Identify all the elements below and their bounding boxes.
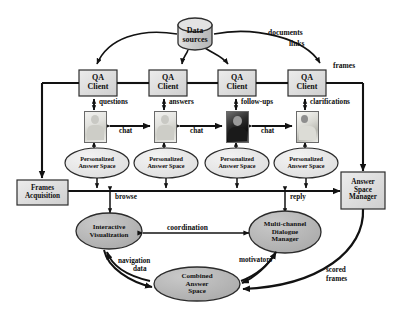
person-photo-4 (296, 111, 319, 143)
frames-acquisition-box (17, 180, 68, 205)
edges-space-to-bus (97, 178, 306, 188)
architecture-diagram: Data sources QA Client QA Client QA Clie… (0, 0, 408, 317)
edge-label-documents: documents (268, 29, 303, 37)
edge-label-clarifications: clarifications (310, 99, 350, 107)
edge-label-chat-2: chat (190, 128, 203, 136)
person-photo-2 (154, 111, 177, 143)
edge-label-data: data (133, 266, 147, 274)
edge-label-coordination: coordination (167, 224, 208, 232)
edges-person-to-space (94, 142, 305, 148)
data-sources-cylinder (178, 18, 212, 50)
edge-label-frames: frames (333, 62, 355, 70)
edge-label-scored: scored (326, 267, 346, 275)
person-photo-1 (84, 111, 107, 143)
edge-label-motivators: motivators (239, 257, 272, 265)
diagram-vector-layer (0, 0, 408, 317)
edge-label-follow-ups: follow-ups (241, 99, 273, 107)
interactive-visualization-shape (76, 213, 142, 249)
edge-label-reply: reply (290, 194, 306, 202)
edge-label-questions: questions (99, 99, 128, 107)
answer-space-manager-box (341, 172, 385, 209)
edge-label-browse: browse (115, 194, 137, 202)
edge-label-scored-frames: frames (326, 276, 347, 284)
edge-label-chat-1: chat (119, 128, 132, 136)
dialogue-manager-shape (249, 211, 321, 253)
personalized-answer-space-shapes (65, 148, 338, 178)
edge-label-chat-3: chat (261, 128, 274, 136)
edge-label-links: links (289, 40, 304, 48)
combined-answer-space-shape (154, 267, 240, 301)
edge-label-answers: answers (169, 99, 194, 107)
person-photo-3 (226, 111, 249, 143)
